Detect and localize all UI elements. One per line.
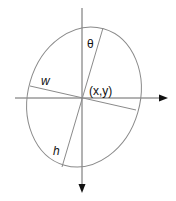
- ellipse: [11, 13, 158, 180]
- theta-label: θ: [87, 37, 94, 51]
- x-axis-arrow-icon: [159, 95, 168, 102]
- width-label: w: [41, 74, 51, 88]
- ellipse-diagram: θ w (x,y) h: [0, 0, 176, 201]
- height-label: h: [53, 144, 60, 158]
- center-label: (x,y): [89, 84, 112, 98]
- y-axis-arrow-icon: [79, 184, 86, 193]
